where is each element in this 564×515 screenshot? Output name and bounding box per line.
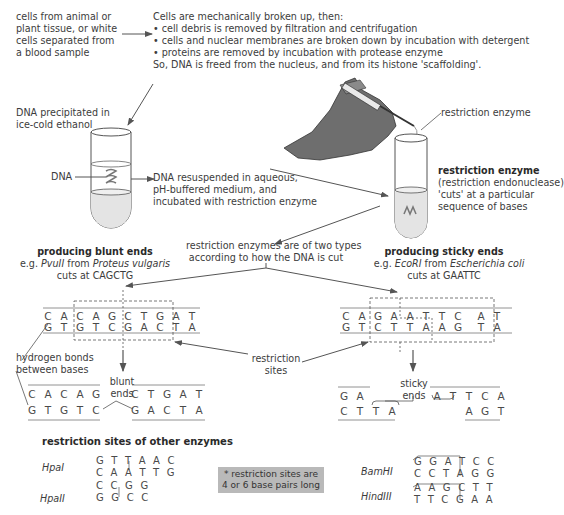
base: A [354,390,366,402]
extraction-bullet: • cell debris is removed by filtration a… [153,23,417,35]
types-line: restriction enzymes are of two types [186,240,346,252]
organism-name: Escherichia coli [450,258,524,269]
base: A [431,390,443,402]
source-line: plant tissue, or white [16,23,117,35]
extraction-intro: Cells are mechanically broken up, then: [153,11,343,23]
base: T [475,321,487,333]
enzyme-title: restriction enzyme [438,165,540,177]
enzyme-name-bamhi: BamHI [361,466,393,478]
restriction-sites-label: sites [236,365,316,377]
restriction-site-length-note: * restriction sites are 4 or 6 base pair… [218,467,324,493]
arrow-to-ethanol-tube [128,84,153,125]
other-enzymes-title: restriction sites of other enzymes [42,436,233,448]
extraction-bullet: • proteins are removed by incubation wit… [153,47,443,59]
base: T [90,321,102,333]
base: T [495,405,507,417]
base: A [74,388,86,400]
hbond-label: hydrogen bonds [16,352,94,364]
base: C [129,388,141,400]
blunt-example: e.g. PvuII from Proteus vulgaris [5,258,185,270]
restriction-sites-label: restriction [236,353,316,365]
hindiii-top-sequence: A A G C T T [414,482,495,493]
base: G [42,321,54,333]
enzyme-desc: 'cuts' at a particular [438,189,534,201]
from-text: from [422,258,450,269]
enzyme-name-hindiii: HindIII [361,491,392,503]
base: C [161,404,173,416]
sticky-ends-label: sticky [396,378,432,390]
types-line: according to how the DNA is cut [186,252,346,264]
base: C [154,321,166,333]
organism-name: Proteus vulgaris [93,258,170,269]
enzyme-name: EcoRI [395,258,422,269]
gloved-hand-pipette [284,78,417,160]
base: G [74,321,86,333]
enzyme-desc: sequence of bases [438,201,527,213]
base: G [479,405,491,417]
enzyme-desc: (restriction endonuclease) [438,177,564,189]
base: T [356,321,368,333]
base: T [388,321,400,333]
base: A [145,404,157,416]
dna-label: DNA [51,171,72,183]
ethanol-test-tube [91,128,131,228]
blunt-cut-site: cuts at CAGCTG [20,270,170,282]
base: C [26,388,38,400]
base: A [463,405,475,417]
base: A [193,404,205,416]
base: T [74,404,86,416]
base: C [58,388,70,400]
hindiii-bottom-sequence: T T C G A A [414,494,495,505]
base: A [138,321,150,333]
base: G [129,404,141,416]
base: C [106,321,118,333]
hpaii-bottom-sequence: G G C C [96,492,150,503]
sticky-example: e.g. EcoRI from Escherichia coli [354,258,544,270]
bamhi-bottom-sequence: C C T A G G [414,468,497,479]
extraction-conclusion: So, DNA is freed from the nucleus, and f… [153,59,481,71]
base: G [26,404,38,416]
base: G [58,404,70,416]
base: G [338,390,350,402]
source-line: cells separated from [16,35,114,47]
base: G [452,321,464,333]
enzyme-name-hpaii: HpaII [40,493,65,505]
base: C [479,390,491,402]
base: C [338,405,350,417]
base: T [145,388,157,400]
base: G [161,388,173,400]
base: T [447,390,459,402]
hbond-label: between bases [16,364,88,376]
hpaii-top-sequence: C C G G [96,480,150,491]
note-line: * restriction sites are [222,469,320,480]
enzyme-name: PvuII [41,258,64,269]
source-line: cells from animal or [16,11,111,23]
sticky-ends-label: ends [396,390,432,402]
resuspension-line: pH-buffered medium, and [153,184,277,196]
dna-coil-icon [106,170,116,184]
source-line: a blood sample [16,47,89,59]
base: A [436,321,448,333]
blunt-ends-label: blunt [104,376,140,388]
resuspension-line: incubated with restriction enzyme [153,196,317,208]
base: T [370,405,382,417]
resuspension-line: DNA resuspended in aqueous, [153,172,298,184]
base: G [90,388,102,400]
base: T [193,388,205,400]
enzyme-test-tube [395,134,427,238]
hpai-bottom-sequence: C A A T T G [96,467,177,478]
precipitation-label: DNA precipitated in [16,107,110,119]
enzyme-pointer-label: restriction enzyme [441,107,531,119]
base: C [372,321,384,333]
base: A [495,390,507,402]
base: A [491,321,503,333]
base: G [340,321,352,333]
sticky-cut-site: cuts at GAATTC [369,270,519,282]
base: C [90,404,102,416]
precipitation-label: ice-cold ethanol [16,119,93,131]
bamhi-top-sequence: G G A T C C [414,456,497,467]
base: A [177,388,189,400]
example-prefix: e.g. [20,258,41,269]
base: T [58,321,70,333]
base: T [177,404,189,416]
